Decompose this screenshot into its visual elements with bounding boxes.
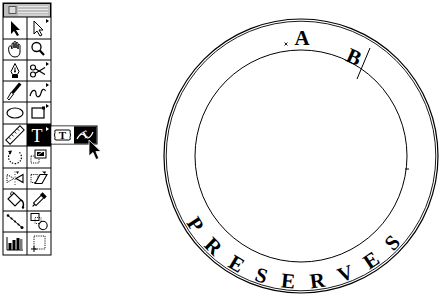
type-t-icon: T (32, 126, 43, 146)
svg-text:T: T (59, 129, 67, 141)
rectangle-icon (32, 107, 45, 119)
tool-rectangle[interactable] (27, 102, 51, 124)
label-a: A (294, 26, 310, 50)
flyout-item-area-type[interactable]: T (52, 127, 75, 144)
tool-brush[interactable] (3, 81, 27, 102)
area-type-icon: T (55, 129, 71, 141)
flyout-item-path-type[interactable]: T (74, 127, 97, 144)
tool-direct-selection[interactable] (27, 17, 51, 39)
tool-freehand[interactable] (27, 81, 51, 102)
tool-hand[interactable] (3, 39, 27, 60)
tool-oval[interactable] (3, 102, 27, 124)
tool-zoom[interactable] (27, 39, 51, 60)
tool-paint-bucket[interactable] (3, 189, 27, 211)
tool-pen[interactable] (3, 60, 27, 81)
inner-circle-path[interactable] (195, 50, 407, 262)
tool-blend[interactable] (3, 211, 27, 232)
tool-graph[interactable] (3, 232, 27, 255)
path-type-start-marker (285, 43, 288, 46)
ellipse-icon (7, 108, 23, 118)
artboard: A B PRESERVES (164, 19, 438, 294)
tool-rotate[interactable] (3, 146, 27, 168)
tool-page[interactable] (27, 232, 51, 255)
tool-eyedropper[interactable] (27, 189, 51, 211)
tool-type[interactable]: T (27, 124, 51, 146)
tool-scissors[interactable] (27, 60, 51, 81)
tool-shear[interactable] (27, 168, 51, 189)
path-text-preserves[interactable]: PRESERVES (182, 212, 405, 293)
toolbox-palette: T (3, 3, 51, 255)
illustrator-workspace: T (0, 0, 443, 299)
toolbox-title-bar[interactable] (4, 4, 51, 18)
tool-measure[interactable] (3, 124, 27, 146)
tool-selection[interactable] (3, 17, 27, 39)
close-box-icon[interactable] (9, 7, 16, 14)
tool-reflect[interactable] (3, 168, 27, 189)
tool-scale[interactable] (27, 146, 51, 168)
tool-auto-trace[interactable] (27, 211, 51, 232)
